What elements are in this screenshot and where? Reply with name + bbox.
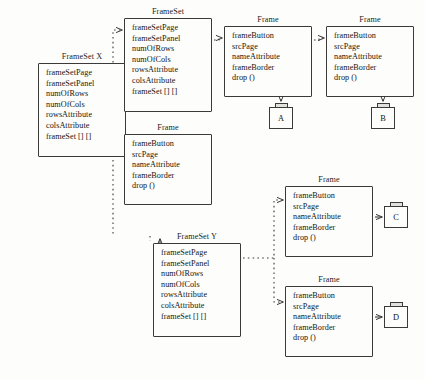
- uml-attribute: nameAttribute: [293, 212, 372, 223]
- uml-box-frameset-top[interactable]: frameSetPageframeSetPanelnumOfRowsnumOfC…: [124, 18, 212, 112]
- uml-attribute: frameBorder: [232, 63, 311, 74]
- uml-attribute: frameBorder: [132, 171, 211, 182]
- uml-attribute: frameSetPage: [132, 23, 211, 34]
- uml-box-title-frame-a: Frame: [212, 15, 324, 24]
- uml-box-attributes: frameButtonsrcPagenameAttributeframeBord…: [125, 135, 211, 195]
- uml-attribute: colsAttribute: [161, 301, 240, 312]
- uml-attribute: frameSet [] []: [161, 312, 240, 323]
- uml-attribute: colsAttribute: [132, 76, 211, 87]
- uml-attribute: frameSetPanel: [46, 79, 125, 90]
- uml-box-title-frame-left-mid: Frame: [112, 123, 224, 132]
- uml-box-frameset-y[interactable]: frameSetPageframeSetPanelnumOfRowsnumOfC…: [153, 243, 241, 337]
- uml-box-attributes: frameButtonsrcPagenameAttributeframeBord…: [225, 27, 311, 87]
- uml-attribute: frameBorder: [293, 323, 372, 334]
- uml-attribute: frameSetPanel: [132, 34, 211, 45]
- uml-attribute: srcPage: [334, 42, 413, 53]
- link-frameset-to-frame-a: [214, 38, 222, 40]
- uml-attribute: frameButton: [334, 31, 413, 42]
- uml-box-title-frameset-y: FrameSet Y: [141, 232, 253, 241]
- uml-box-title-frame-d: Frame: [273, 275, 385, 284]
- uml-attribute: frameBorder: [293, 223, 372, 234]
- uml-attribute: drop (): [293, 233, 372, 244]
- page-node-page-b[interactable]: B: [371, 107, 395, 129]
- uml-box-attributes: frameButtonsrcPagenameAttributeframeBord…: [327, 27, 413, 87]
- uml-box-frameset-x[interactable]: frameSetPageframeSetPanelnumOfRowsnumOfC…: [38, 63, 126, 157]
- uml-attribute: srcPage: [293, 302, 372, 313]
- uml-box-title-frame-b: Frame: [314, 15, 425, 24]
- uml-box-attributes: frameSetPageframeSetPanelnumOfRowsnumOfC…: [39, 64, 125, 145]
- uml-box-frame-a[interactable]: frameButtonsrcPagenameAttributeframeBord…: [224, 26, 312, 97]
- page-node-page-c[interactable]: C: [384, 206, 408, 228]
- uml-box-frame-c[interactable]: frameButtonsrcPagenameAttributeframeBord…: [285, 186, 373, 257]
- uml-attribute: numOfRows: [46, 89, 125, 100]
- page-node-page-a[interactable]: A: [269, 107, 293, 129]
- link-frame-a-to-frame-b: [314, 38, 324, 40]
- uml-attribute: nameAttribute: [334, 52, 413, 63]
- link-framesety-to-frame-c: [243, 200, 283, 258]
- uml-box-attributes: frameSetPageframeSetPanelnumOfRowsnumOfC…: [125, 19, 211, 100]
- uml-box-frame-d[interactable]: frameButtonsrcPagenameAttributeframeBord…: [285, 286, 373, 357]
- uml-attribute: rowsAttribute: [161, 290, 240, 301]
- uml-attribute: nameAttribute: [293, 312, 372, 323]
- uml-box-title-frameset-x: FrameSet X: [26, 52, 138, 61]
- uml-box-title-frame-c: Frame: [273, 175, 385, 184]
- uml-attribute: frameBorder: [334, 63, 413, 74]
- uml-attribute: rowsAttribute: [46, 110, 125, 121]
- uml-attribute: frameButton: [132, 139, 211, 150]
- uml-box-attributes: frameButtonsrcPagenameAttributeframeBord…: [286, 287, 372, 347]
- uml-box-attributes: frameButtonsrcPagenameAttributeframeBord…: [286, 187, 372, 247]
- uml-attribute: drop (): [132, 181, 211, 192]
- uml-attribute: frameButton: [293, 291, 372, 302]
- uml-attribute: numOfRows: [132, 44, 211, 55]
- uml-box-frame-b[interactable]: frameButtonsrcPagenameAttributeframeBord…: [326, 26, 414, 97]
- uml-attribute: numOfCols: [132, 55, 211, 66]
- uml-attribute: nameAttribute: [232, 52, 311, 63]
- uml-attribute: numOfRows: [161, 269, 240, 280]
- uml-attribute: srcPage: [293, 202, 372, 213]
- uml-attribute: drop (): [232, 73, 311, 84]
- uml-attribute: drop (): [334, 73, 413, 84]
- diagram-canvas: FrameSet XframeSetPageframeSetPanelnumOf…: [0, 0, 425, 380]
- uml-attribute: numOfCols: [46, 100, 125, 111]
- uml-box-attributes: frameSetPageframeSetPanelnumOfRowsnumOfC…: [154, 244, 240, 325]
- uml-attribute: srcPage: [132, 150, 211, 161]
- uml-attribute: frameSetPanel: [161, 259, 240, 270]
- uml-attribute: nameAttribute: [132, 160, 211, 171]
- uml-attribute: frameSet [] []: [46, 132, 125, 143]
- uml-attribute: numOfCols: [161, 280, 240, 291]
- uml-attribute: srcPage: [232, 42, 311, 53]
- page-node-page-d[interactable]: D: [384, 306, 408, 328]
- uml-attribute: frameButton: [232, 31, 311, 42]
- uml-attribute: frameButton: [293, 191, 372, 202]
- uml-attribute: drop (): [293, 333, 372, 344]
- uml-box-title-frameset-top: FrameSet: [112, 7, 224, 16]
- uml-attribute: frameSetPage: [46, 68, 125, 79]
- uml-attribute: rowsAttribute: [132, 65, 211, 76]
- uml-box-frame-left-mid[interactable]: frameButtonsrcPagenameAttributeframeBord…: [124, 134, 212, 205]
- uml-attribute: frameSet [] []: [132, 87, 211, 98]
- uml-attribute: frameSetPage: [161, 248, 240, 259]
